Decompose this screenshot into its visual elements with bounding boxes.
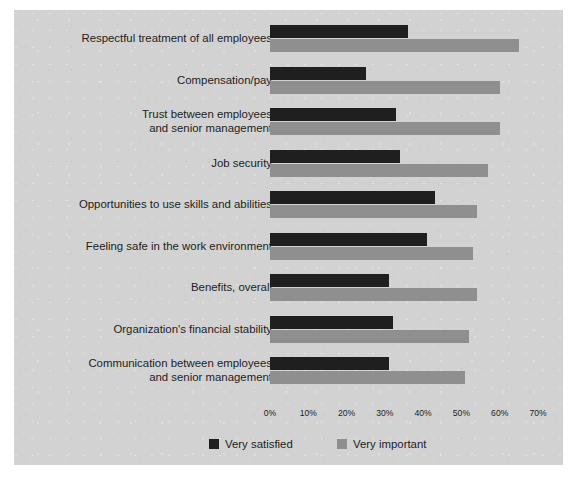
chart-row: Respectful treatment of all employees <box>14 25 563 53</box>
x-axis-tick-label: 10% <box>300 408 317 418</box>
bar-group <box>270 191 540 219</box>
bar-very-important <box>270 164 488 177</box>
bar-very-important <box>270 330 469 343</box>
bar-group <box>270 25 540 53</box>
bar-group <box>270 67 540 95</box>
bar-group <box>270 150 540 178</box>
bar-very-important <box>270 205 477 218</box>
category-label: Feeling safe in the work environment <box>32 240 272 254</box>
legend-item-very-important: Very important <box>337 438 426 450</box>
bar-group <box>270 108 540 136</box>
x-axis-tick-label: 40% <box>415 408 432 418</box>
chart-legend: Very satisfied Very important <box>14 438 563 456</box>
category-label: Trust between employees and senior manag… <box>32 108 272 135</box>
bar-very-important <box>270 39 519 52</box>
chart-row: Communication between employees and seni… <box>14 357 563 385</box>
legend-label-very-important: Very important <box>353 438 426 450</box>
x-axis-tick-label: 70% <box>529 408 546 418</box>
x-axis-tick-label: 30% <box>376 408 393 418</box>
bar-very-satisfied <box>270 191 435 204</box>
bar-very-important <box>270 81 500 94</box>
category-label: Communication between employees and seni… <box>32 357 272 384</box>
chart-row: Job security <box>14 150 563 178</box>
bar-very-satisfied <box>270 316 393 329</box>
bar-very-satisfied <box>270 150 400 163</box>
x-axis-tick-label: 60% <box>491 408 508 418</box>
plot-area: Respectful treatment of all employeesCom… <box>14 10 563 465</box>
category-label: Opportunities to use skills and abilitie… <box>32 198 272 212</box>
bar-very-satisfied <box>270 67 366 80</box>
bar-very-satisfied <box>270 25 408 38</box>
x-axis-tick-label: 50% <box>453 408 470 418</box>
chart-title-clipped: satisfaction. <box>0 0 577 8</box>
chart-page: satisfaction. Respectful treatment of al… <box>0 0 577 480</box>
bar-very-satisfied <box>270 108 396 121</box>
chart-title: satisfaction. <box>88 0 162 2</box>
legend-label-very-satisfied: Very satisfied <box>225 438 293 450</box>
legend-swatch-icon-very-important <box>337 439 347 449</box>
legend-item-very-satisfied: Very satisfied <box>209 438 293 450</box>
bar-group <box>270 357 540 385</box>
bar-group <box>270 274 540 302</box>
legend-swatch-icon-very-satisfied <box>209 439 219 449</box>
chart-row: Organization's financial stability <box>14 316 563 344</box>
bar-very-satisfied <box>270 233 427 246</box>
chart-row: Opportunities to use skills and abilitie… <box>14 191 563 219</box>
bar-very-satisfied <box>270 357 389 370</box>
chart-row: Benefits, overall <box>14 274 563 302</box>
category-label: Organization's financial stability <box>32 323 272 337</box>
bar-very-satisfied <box>270 274 389 287</box>
category-label: Benefits, overall <box>32 281 272 295</box>
category-label: Compensation/pay <box>32 74 272 88</box>
chart-row: Trust between employees and senior manag… <box>14 108 563 136</box>
bar-very-important <box>270 247 473 260</box>
bar-group <box>270 233 540 261</box>
chart-panel: Respectful treatment of all employeesCom… <box>14 10 563 465</box>
chart-row: Feeling safe in the work environment <box>14 233 563 261</box>
bar-group <box>270 316 540 344</box>
chart-row: Compensation/pay <box>14 67 563 95</box>
category-label: Job security <box>32 157 272 171</box>
x-axis-tick-label: 20% <box>338 408 355 418</box>
bar-very-important <box>270 371 465 384</box>
category-label: Respectful treatment of all employees <box>32 32 272 46</box>
x-axis: 0%10%20%30%40%50%60%70% <box>270 408 550 424</box>
bar-very-important <box>270 122 500 135</box>
bar-very-important <box>270 288 477 301</box>
x-axis-tick-label: 0% <box>264 408 276 418</box>
